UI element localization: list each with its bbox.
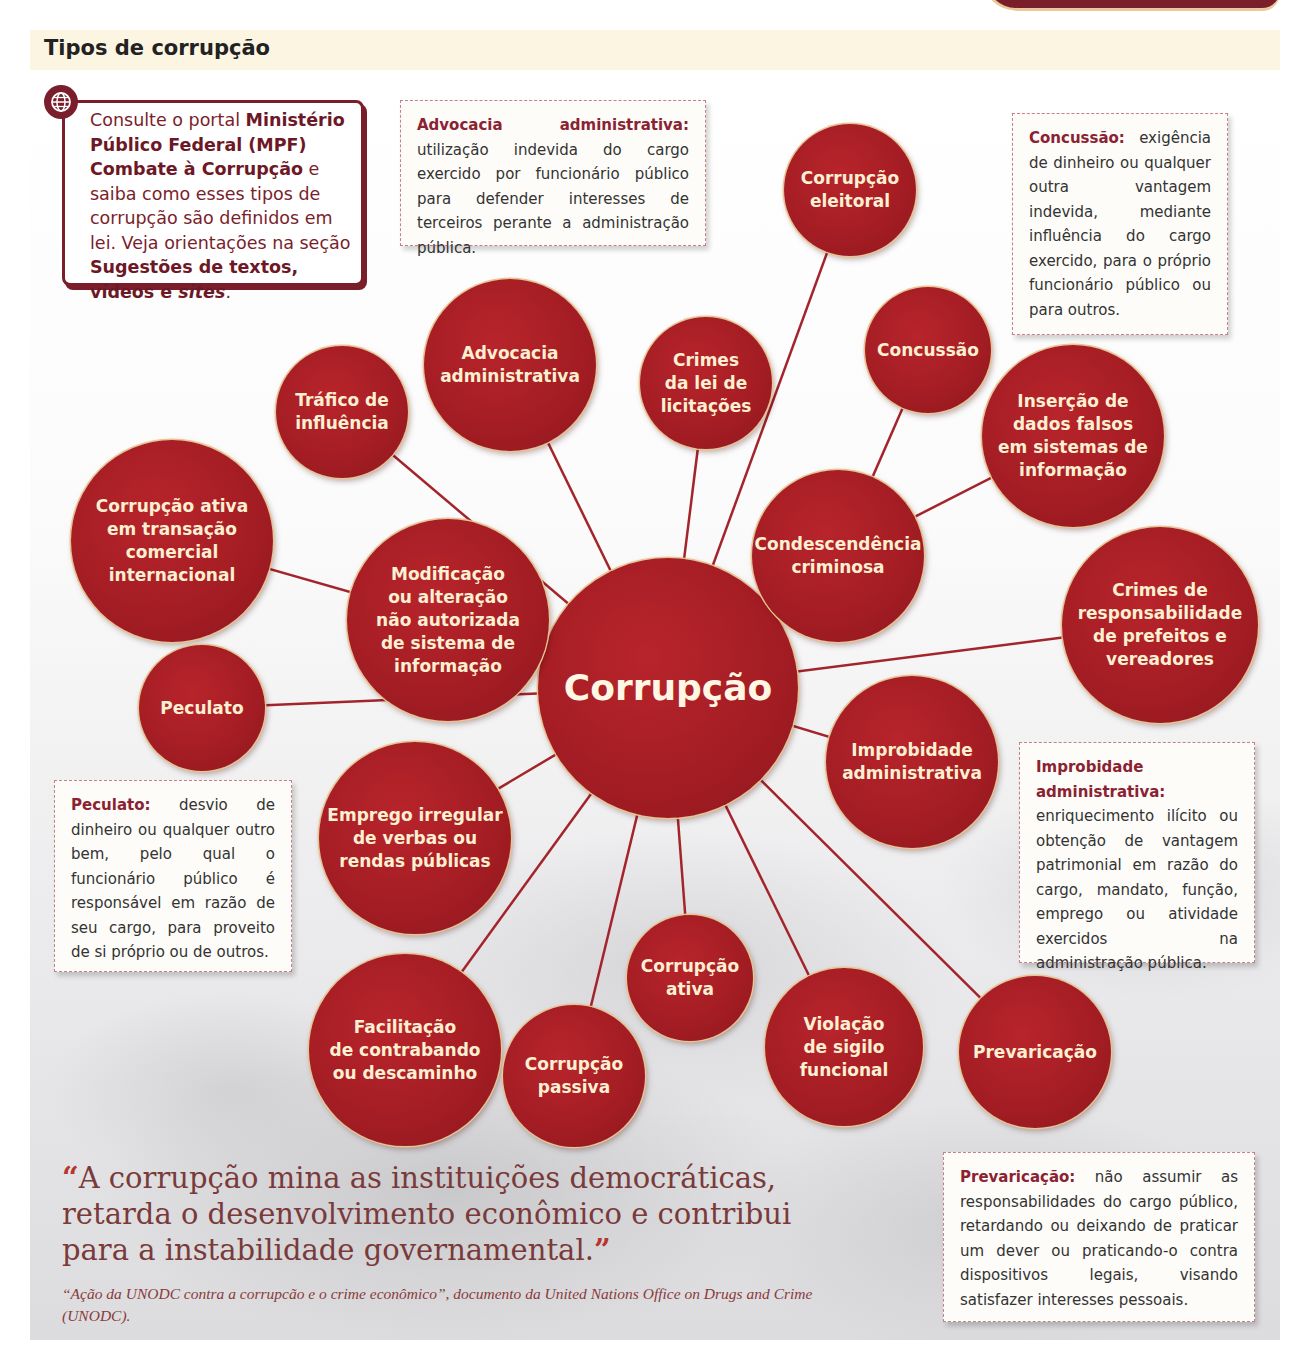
- quote-citation: “Ação da UNODC contra a corrupcão e o cr…: [62, 1283, 822, 1327]
- definition-term: Prevaricação:: [960, 1168, 1075, 1186]
- node-responsabilidade: Crimes de responsabilidade de prefeitos …: [1062, 527, 1258, 723]
- node-violacao: Violação de sigilo funcional: [765, 968, 923, 1126]
- definition-text: desvio de dinheiro ou qualquer outro bem…: [71, 796, 275, 961]
- definition-peculato: Peculato: desvio de dinheiro ou qualquer…: [54, 780, 292, 972]
- node-condescendencia: Condescendência criminosa: [752, 470, 924, 642]
- node-concussao: Concussão: [865, 287, 991, 413]
- definition-concussao: Concussão: exigência de dinheiro ou qual…: [1012, 113, 1228, 335]
- node-facilitacao: Facilitação de contrabando ou descaminho: [309, 954, 501, 1146]
- web-tip-text-part: .: [225, 282, 231, 302]
- definition-term: Concussão:: [1029, 129, 1125, 147]
- node-licitacoes: Crimes da lei de licitações: [640, 317, 772, 449]
- definition-term: Peculato:: [71, 796, 150, 814]
- node-trafico: Tráfico de influência: [276, 346, 408, 478]
- node-modificacao: Modificação ou alteração não autorizada …: [347, 519, 549, 721]
- node-transacao: Corrupção ativa em transação comercial i…: [71, 440, 273, 642]
- node-peculato: Peculato: [139, 645, 265, 771]
- web-tip-text-part: Consulte o portal: [90, 110, 246, 130]
- node-advocacia: Advocacia administrativa: [424, 279, 596, 451]
- globe-icon: [44, 85, 78, 119]
- definition-text: não assumir as responsabilidades do carg…: [960, 1168, 1238, 1309]
- node-passiva: Corrupção passiva: [503, 1005, 645, 1147]
- close-quote-mark: ”: [594, 1233, 611, 1267]
- node-insercao: Inserção de dados falsos em sistemas de …: [982, 345, 1164, 527]
- open-quote-mark: “: [62, 1161, 79, 1195]
- definition-advocacia: Advocacia administrativa: utilização ind…: [400, 100, 706, 246]
- definition-text: utilização indevida do cargo exercido po…: [417, 141, 689, 257]
- node-prevaricacao: Prevaricação: [959, 976, 1111, 1128]
- web-tip-text-part: sites: [178, 282, 225, 302]
- node-improbidade: Improbidade administrativa: [826, 676, 998, 848]
- definition-term: Advocacia administrativa:: [417, 116, 689, 134]
- quote-text: A corrupção mina as instituições democrá…: [62, 1161, 791, 1267]
- pull-quote: “A corrupção mina as instituições democr…: [62, 1160, 852, 1268]
- node-emprego: Emprego irregular de verbas ou rendas pú…: [319, 742, 511, 934]
- web-tip-text: Consulte o portal Ministério Público Fed…: [90, 108, 360, 304]
- definition-term: Improbidade administrativa:: [1036, 758, 1165, 801]
- definition-improbidade: Improbidade administrativa: enriquecimen…: [1019, 742, 1255, 963]
- node-eleitoral: Corrupção eleitoral: [784, 124, 916, 256]
- definition-text: exigência de dinheiro ou qualquer outra …: [1029, 129, 1211, 319]
- definition-prevaricacao: Prevaricação: não assumir as responsabil…: [943, 1152, 1255, 1322]
- center-node: Corrupção: [538, 558, 798, 818]
- node-ativa: Corrupção ativa: [627, 915, 753, 1041]
- definition-text: enriquecimento ilícito ou obtenção de va…: [1036, 807, 1238, 972]
